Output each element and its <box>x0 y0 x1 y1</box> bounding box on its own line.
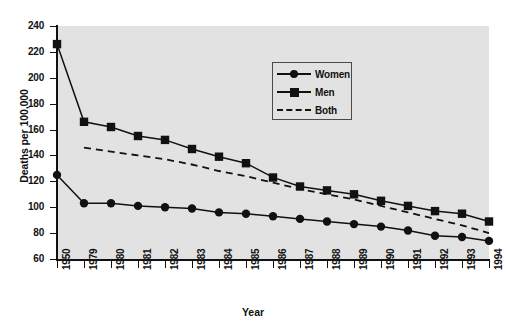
chart-legend: Women Men Both <box>272 62 352 120</box>
legend-label-women: Women <box>315 69 350 80</box>
data-point-men-1985 <box>242 159 250 167</box>
square-solid-line-icon <box>277 86 311 98</box>
data-point-men-1986 <box>269 173 277 181</box>
data-point-men-1992 <box>431 207 439 215</box>
data-point-men-1983 <box>188 145 196 153</box>
data-point-women-1982 <box>161 203 169 211</box>
data-point-women-1986 <box>269 212 277 220</box>
legend-entry-women: Women <box>277 67 350 81</box>
data-point-men-1981 <box>134 132 142 140</box>
legend-label-both: Both <box>315 105 337 116</box>
data-point-men-1993 <box>458 210 466 218</box>
data-point-women-1988 <box>323 217 331 225</box>
data-point-women-1989 <box>350 220 358 228</box>
y-axis-title: Deaths per 100,000 <box>18 56 30 216</box>
data-point-men-1994 <box>485 217 493 225</box>
data-point-women-1983 <box>188 204 196 212</box>
data-point-men-1982 <box>161 136 169 144</box>
data-point-men-1991 <box>404 202 412 210</box>
data-point-women-1991 <box>404 226 412 234</box>
mortality-line-chart: 6080100120140160180200220240 19501979198… <box>0 0 506 325</box>
data-point-men-1950 <box>53 40 61 48</box>
data-point-women-1979 <box>80 199 88 207</box>
data-point-men-1980 <box>107 123 115 131</box>
data-point-women-1985 <box>242 210 250 218</box>
series-layer <box>0 0 506 325</box>
data-point-men-1979 <box>80 118 88 126</box>
data-point-women-1980 <box>107 199 115 207</box>
x-axis-title: Year <box>0 306 506 318</box>
legend-label-men: Men <box>315 87 334 98</box>
legend-entry-both: Both <box>277 103 337 117</box>
data-point-women-1992 <box>431 232 439 240</box>
data-point-women-1990 <box>377 222 385 230</box>
legend-entry-men: Men <box>277 85 334 99</box>
series-line-women <box>57 175 489 241</box>
data-point-men-1984 <box>215 153 223 161</box>
circle-solid-line-icon <box>277 68 311 80</box>
data-point-women-1984 <box>215 208 223 216</box>
data-point-men-1990 <box>377 197 385 205</box>
series-line-both <box>84 148 489 233</box>
data-point-men-1989 <box>350 190 358 198</box>
data-point-women-1950 <box>53 171 61 179</box>
data-point-women-1993 <box>458 233 466 241</box>
dashed-line-icon <box>277 104 311 116</box>
data-point-women-1981 <box>134 202 142 210</box>
data-point-women-1987 <box>296 215 304 223</box>
data-point-women-1994 <box>485 237 493 245</box>
